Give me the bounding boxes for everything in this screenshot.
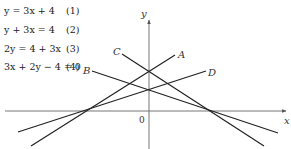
line-b [92, 71, 278, 133]
line-b-label: B [82, 65, 90, 76]
line-d-label: D [207, 67, 216, 78]
line-d [18, 71, 206, 132]
line-c [122, 54, 264, 146]
origin-label: 0 [139, 115, 145, 125]
line-c-label: C [113, 46, 121, 57]
x-axis-label: x [284, 115, 290, 126]
diagram: y = 3x + 4 (1) y + 3x = 4 (2) 2y = 4 + 3… [0, 0, 291, 149]
y-axis-label: y [140, 8, 147, 19]
graph: y x 0 A B C D [0, 0, 291, 149]
line-a-label: A [177, 49, 185, 60]
line-a [31, 55, 175, 146]
